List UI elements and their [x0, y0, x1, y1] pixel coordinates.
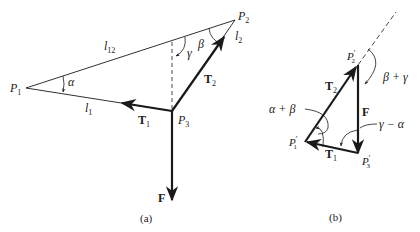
- label-p1-prime: P′1: [288, 135, 298, 151]
- angle-arc-gamma-minus-alpha: [341, 130, 358, 146]
- vector-t1: [122, 103, 172, 111]
- label-p3-prime: P′3: [361, 154, 371, 170]
- label-p3: P3: [177, 113, 189, 129]
- label-t2-b: T2: [325, 79, 337, 95]
- label-l12: l12: [104, 39, 115, 55]
- label-beta-plus-gamma: β + γ: [382, 70, 408, 84]
- panel-a: P1 P2 P3 l12 l1 l2 α β γ T1 T2 F (a): [9, 9, 249, 225]
- label-t1-b: T1: [325, 147, 337, 163]
- label-f-b: F: [362, 105, 369, 119]
- label-f: F: [158, 191, 165, 205]
- label-gamma: γ: [187, 46, 192, 60]
- angle-arc-gamma-minus-alpha-leader: [360, 124, 377, 128]
- caption-a: (a): [140, 212, 153, 225]
- label-l1: l1: [85, 101, 92, 117]
- label-l2: l2: [235, 29, 242, 45]
- angle-arc-gamma: [176, 37, 185, 56]
- caption-b: (b): [329, 211, 342, 224]
- label-p2: P2: [237, 9, 249, 25]
- label-alpha-plus-beta: α + β: [269, 102, 295, 116]
- label-t1: T1: [138, 113, 150, 129]
- label-p2-prime: P′2: [346, 49, 356, 65]
- label-p1: P1: [9, 81, 21, 97]
- label-beta: β: [197, 37, 204, 51]
- label-t2: T2: [204, 72, 216, 88]
- label-alpha: α: [68, 75, 75, 89]
- panel-b: P′2 P′1 P′3 β + γ α + β γ − α T2 F T1 (b…: [269, 12, 408, 224]
- force-diagram: P1 P2 P3 l12 l1 l2 α β γ T1 T2 F (a) P′2…: [0, 0, 420, 232]
- angle-arc-alpha: [63, 76, 64, 92]
- angle-arc-beta-plus-gamma: [365, 49, 376, 84]
- label-gamma-minus-alpha: γ − α: [379, 117, 405, 131]
- dashed-extension: [358, 12, 396, 65]
